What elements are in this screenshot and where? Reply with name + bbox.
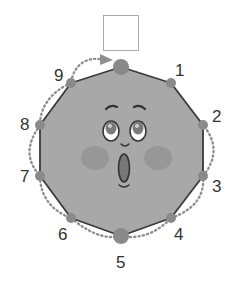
vertex-8: [35, 120, 45, 130]
mouth: [119, 154, 130, 182]
label-9: 9: [54, 66, 63, 85]
label-2: 2: [212, 107, 221, 126]
vertex-7: [35, 171, 45, 181]
label-6: 6: [58, 225, 67, 244]
vertex-top: [113, 59, 129, 75]
label-4: 4: [174, 225, 183, 244]
right-eye: [130, 121, 146, 141]
label-1: 1: [175, 61, 184, 80]
label-8: 8: [20, 115, 29, 134]
label-7: 7: [20, 167, 29, 186]
vertex-4: [166, 213, 176, 223]
left-cheek: [81, 146, 109, 170]
vertex-3: [198, 171, 208, 181]
label-5: 5: [116, 253, 125, 272]
label-3: 3: [212, 177, 221, 196]
vertex-2: [198, 120, 208, 130]
nonagon-diagram: 1 2 3 4 5 6 7 8 9: [0, 0, 242, 286]
arrow-head-icon: [100, 54, 113, 65]
right-cheek: [144, 146, 172, 170]
vertex-5: [113, 228, 129, 244]
vertex-9: [66, 78, 76, 88]
answer-box[interactable]: [104, 16, 139, 51]
left-eye: [103, 121, 119, 141]
nonagon-face: [40, 67, 203, 236]
vertex-6: [66, 213, 76, 223]
